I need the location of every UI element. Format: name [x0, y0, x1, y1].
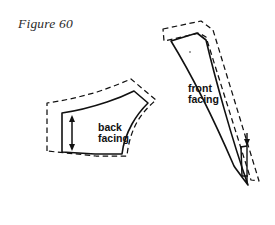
front-facing-label-line2: facing: [188, 93, 219, 105]
front-facing-piece: front facing: [163, 21, 259, 185]
front-facing-registration-dot: [189, 51, 191, 53]
back-facing-piece: back facing: [47, 79, 156, 156]
back-facing-seam-allowance-dashed-outline: [47, 79, 156, 156]
sewing-pattern-diagram: back facing front facing: [0, 0, 275, 225]
front-facing-depth-bracket: [241, 133, 250, 184]
back-facing-label-line2: facing: [98, 132, 129, 144]
figure-page: Figure 60 back facing: [0, 0, 275, 225]
back-facing-depth-arrow: [69, 115, 75, 151]
